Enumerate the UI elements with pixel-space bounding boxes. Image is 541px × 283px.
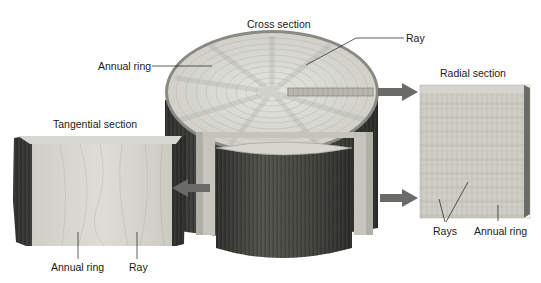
wood-sections-diagram: Cross section Annual ring Ray Radial sec… (0, 0, 541, 283)
arrow-right-icon (378, 83, 418, 101)
tangential-ray-label: Ray (129, 262, 148, 273)
tangential-section-title: Tangential section (53, 119, 137, 130)
radial-section-title: Radial section (440, 68, 506, 79)
radial-annual-ring-label: Annual ring (474, 226, 527, 237)
tangential-face (32, 144, 172, 246)
log-front-piece (216, 142, 352, 258)
radial-section-block (420, 85, 530, 218)
radial-rays-label: Rays (433, 226, 457, 237)
cross-ray-label: Ray (406, 33, 425, 44)
tangential-section-block (13, 136, 186, 246)
cross-annual-ring-label: Annual ring (98, 61, 151, 72)
diagram-canvas (0, 0, 541, 283)
arrow-right-icon (380, 189, 418, 207)
cross-section-title: Cross section (247, 19, 311, 30)
ray-strip (288, 88, 373, 96)
tangential-annual-ring-label: Annual ring (51, 262, 104, 273)
